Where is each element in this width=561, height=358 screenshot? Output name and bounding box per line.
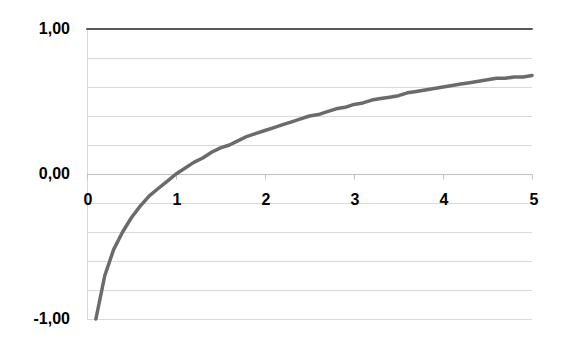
y-tick-label-0: 0,00 — [39, 165, 70, 183]
x-tick-label-2: 2 — [256, 191, 276, 209]
axes — [87, 29, 533, 319]
x-tick-label-4: 4 — [434, 191, 454, 209]
x-tick-label-3: 3 — [345, 191, 365, 209]
x-tick-label-1: 1 — [167, 191, 187, 209]
y-tick-label-minus-1: -1,00 — [34, 310, 70, 328]
y-tick-label-1: 1,00 — [39, 20, 70, 38]
log-curve-series-line — [96, 75, 532, 319]
x-tick-label-5: 5 — [524, 191, 544, 209]
line-chart — [0, 0, 561, 358]
x-tick-label-0: 0 — [78, 191, 98, 209]
